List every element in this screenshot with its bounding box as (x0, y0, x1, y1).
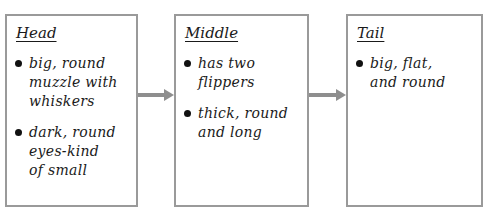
box-middle: Middle has two flippers thick, round and… (174, 14, 309, 207)
bullet-list: big, round muzzle with whiskers dark, ro… (13, 54, 132, 192)
bullet-list: big, flat, and round (354, 54, 477, 104)
bullet-icon (356, 60, 363, 67)
list-item-text: big, round muzzle with whiskers (29, 55, 118, 109)
list-item: dark, round eyes-kind of small (13, 123, 132, 180)
list-item: has two flippers (182, 54, 303, 92)
box-title: Middle (185, 24, 238, 42)
box-title: Tail (357, 24, 384, 42)
list-item-text: dark, round eyes-kind of small (29, 124, 116, 178)
box-tail: Tail big, flat, and round (346, 14, 483, 207)
arrow-right-icon (138, 91, 174, 99)
list-item: big, flat, and round (354, 54, 477, 92)
bullet-icon (15, 60, 22, 67)
bullet-icon (184, 60, 191, 67)
list-item-text: big, flat, and round (370, 55, 446, 90)
bullet-list: has two flippers thick, round and long (182, 54, 303, 154)
bullet-icon (184, 110, 191, 117)
list-item-text: has two flippers (198, 55, 255, 90)
box-head: Head big, round muzzle with whiskers dar… (5, 14, 138, 207)
arrow-right-icon (309, 91, 346, 99)
box-title: Head (16, 24, 57, 42)
bullet-icon (15, 129, 22, 136)
list-item: thick, round and long (182, 104, 303, 142)
list-item-text: thick, round and long (198, 105, 288, 140)
list-item: big, round muzzle with whiskers (13, 54, 132, 111)
